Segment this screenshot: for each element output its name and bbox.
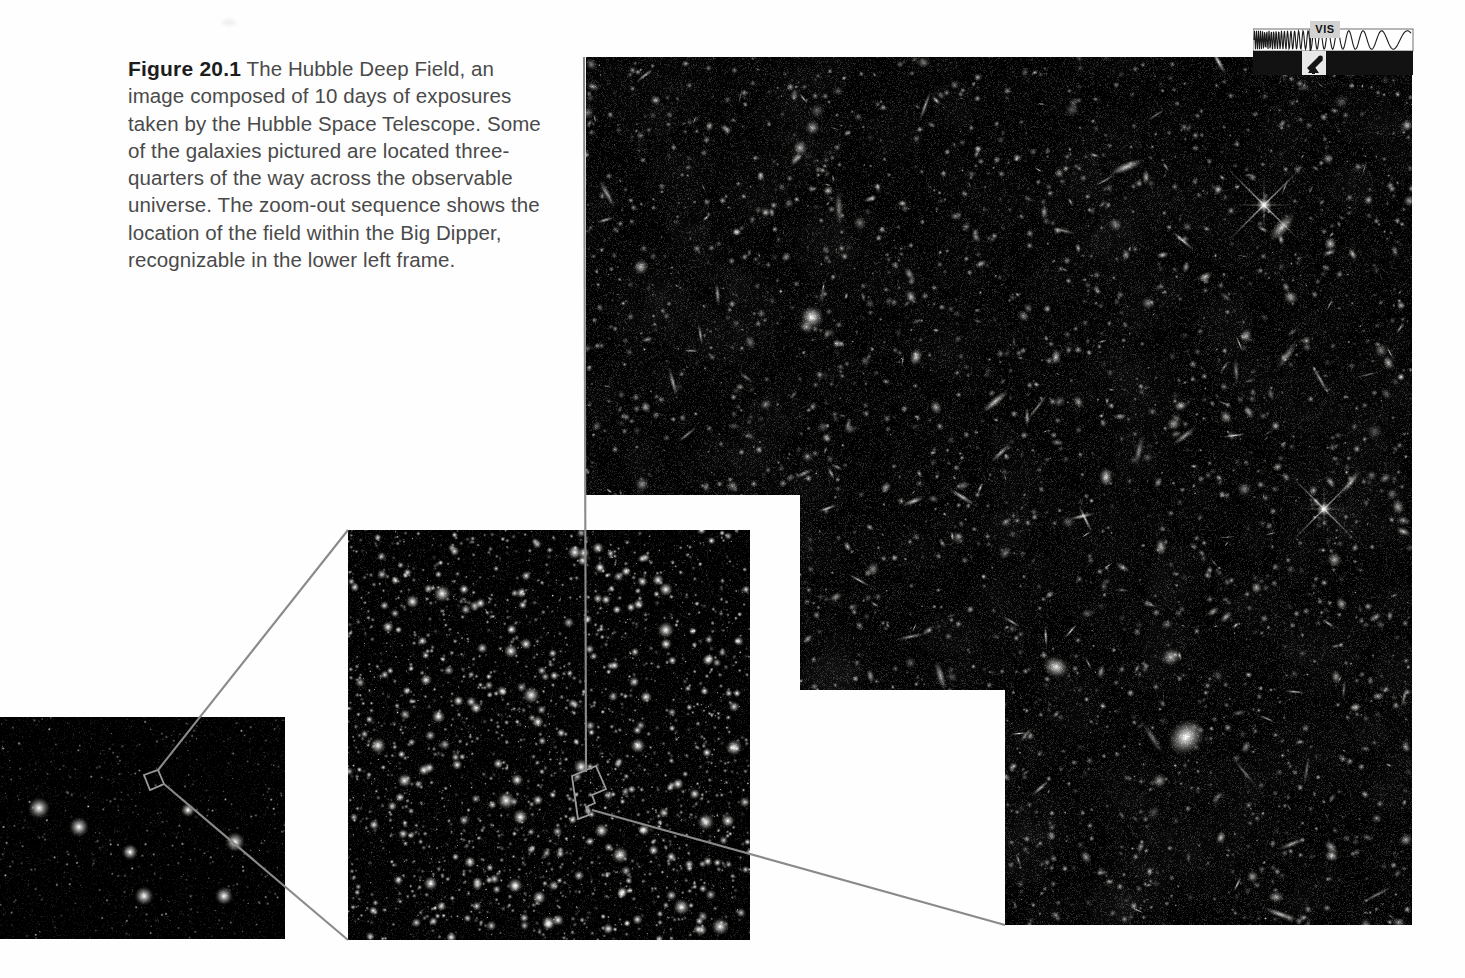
midfield-canvas [348,530,750,940]
figure-caption: Figure 20.1 The Hubble Deep Field, an im… [128,55,550,273]
dipper-canvas [0,717,285,939]
wide-star-field-image [348,530,750,940]
big-dipper-image [0,717,285,939]
vis-band-label: VIS [1310,21,1340,38]
scan-artifact [222,19,236,26]
figure-label: Figure 20.1 [128,57,241,80]
figure-caption-text: The Hubble Deep Field, an image composed… [128,57,541,271]
